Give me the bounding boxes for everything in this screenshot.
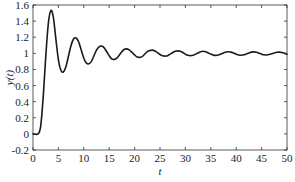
y-axis-label: y(t) [3,70,16,87]
x-tick-label: 10 [78,152,90,164]
y-tick-label: 0.4 [15,96,29,108]
x-tick-label: 35 [205,152,217,164]
y-axis-ticks: -0.200.20.40.60.811.21.41.6 [12,0,287,156]
y-tick-label: 1.2 [15,31,29,43]
y-tick-label: 0.8 [15,63,29,75]
y-tick-label: 0.6 [15,80,29,92]
y-tick-label: 1.6 [15,0,29,11]
response-curve [33,10,287,134]
x-tick-label: 45 [256,152,268,164]
x-tick-label: 15 [104,152,116,164]
x-tick-label: 50 [282,152,294,164]
y-tick-label: -0.2 [12,144,29,156]
x-tick-label: 25 [155,152,167,164]
axes-frame [33,5,287,150]
x-tick-label: 40 [231,152,243,164]
y-tick-label: 0 [24,128,30,140]
x-tick-label: 30 [180,152,192,164]
y-tick-label: 1.4 [15,15,29,27]
x-tick-label: 20 [129,152,141,164]
x-tick-label: 5 [56,152,62,164]
x-axis-label: t [158,165,162,177]
y-tick-label: 1 [24,47,30,59]
y-tick-label: 0.2 [15,112,29,124]
step-response-chart: 05101520253035404550 -0.200.20.40.60.811… [0,0,295,182]
x-tick-label: 0 [30,152,36,164]
x-axis-ticks: 05101520253035404550 [30,5,293,164]
